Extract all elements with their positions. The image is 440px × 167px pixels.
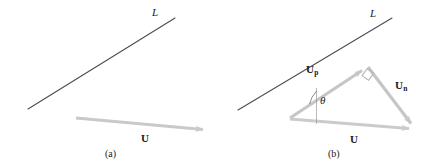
angle-label-theta: θ <box>320 95 325 106</box>
caption-a: (a) <box>105 149 116 159</box>
vector-label-Un-sub: n <box>403 84 407 93</box>
line-label-L-b: L <box>370 8 376 19</box>
panel-b: L Up Un θ U (b) <box>220 0 440 167</box>
vector-label-Up-sub: p <box>314 68 318 77</box>
vector-projection-figure: L U (a) <box>0 0 440 167</box>
vector-label-Un-base: U <box>395 79 403 91</box>
panel-a: L U (a) <box>0 0 220 167</box>
vector-Un-b <box>368 67 411 124</box>
line-L-a <box>28 18 175 109</box>
panel-a-graphics <box>0 0 220 167</box>
vector-U-b <box>290 119 409 129</box>
vector-label-Un-b: Un <box>395 80 407 93</box>
vector-label-Up-b: Up <box>306 64 318 77</box>
caption-b: (b) <box>328 149 340 159</box>
vector-label-Up-base: U <box>306 63 314 75</box>
vector-label-U-b: U <box>350 134 358 145</box>
vector-Up-b <box>290 71 362 119</box>
line-label-L-a: L <box>152 7 158 18</box>
vector-U-a <box>76 118 203 130</box>
vector-label-U-a: U <box>141 133 149 144</box>
